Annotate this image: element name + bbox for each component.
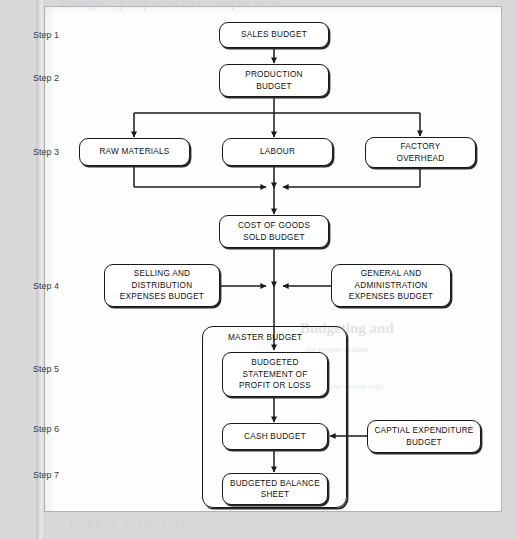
- node-budgeted-statement-profit-loss[interactable]: BUDGETEDSTATEMENT OFPROFIT OR LOSS: [222, 352, 328, 397]
- node-sales-budget[interactable]: SALES BUDGET: [219, 22, 329, 48]
- step-label-1: Step 1: [33, 30, 59, 40]
- master-budget-label: MASTER BUDGET: [228, 333, 302, 342]
- node-cash-budget[interactable]: CASH BUDGET: [222, 423, 328, 450]
- step-label-5: Step 5: [33, 364, 59, 374]
- node-labour[interactable]: LABOUR: [222, 138, 333, 166]
- step-label-3: Step 3: [33, 147, 59, 157]
- step-label-7: Step 7: [33, 470, 59, 480]
- flowchart-canvas: Step 1 Step 2 Step 3 Step 4 Step 5 Step …: [0, 0, 517, 539]
- step-label-6: Step 6: [33, 424, 59, 434]
- step-label-2: Step 2: [33, 73, 59, 83]
- node-factory-overhead[interactable]: FACTORYOVERHEAD: [365, 137, 476, 168]
- node-cost-of-goods-sold[interactable]: COST OF GOODSSOLD BUDGET: [219, 215, 329, 248]
- node-budgeted-balance-sheet[interactable]: BUDGETED BALANCESHEET: [222, 473, 328, 505]
- node-general-administration-expenses[interactable]: GENERAL ANDADMINISTRATIONEXPENSES BUDGET: [331, 264, 451, 307]
- node-production-budget[interactable]: PRODUCTIONBUDGET: [219, 64, 329, 97]
- node-capital-expenditure-budget[interactable]: CAPTIAL EXPENDITUREBUDGET: [367, 420, 481, 453]
- node-selling-distribution-expenses[interactable]: SELLING ANDDISTRIBUTIONEXPENSES BUDGET: [104, 264, 220, 307]
- node-raw-materials[interactable]: RAW MATERIALS: [79, 138, 190, 166]
- step-label-4: Step 4: [33, 281, 59, 291]
